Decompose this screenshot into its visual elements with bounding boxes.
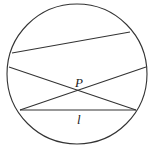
chord-top [12,32,130,53]
label-line-l: l [77,113,81,126]
label-point-p: P [75,76,83,89]
geometry-diagram: P l [0,0,154,149]
chord-cross-up [20,67,146,110]
chord-cross-down [9,67,136,110]
